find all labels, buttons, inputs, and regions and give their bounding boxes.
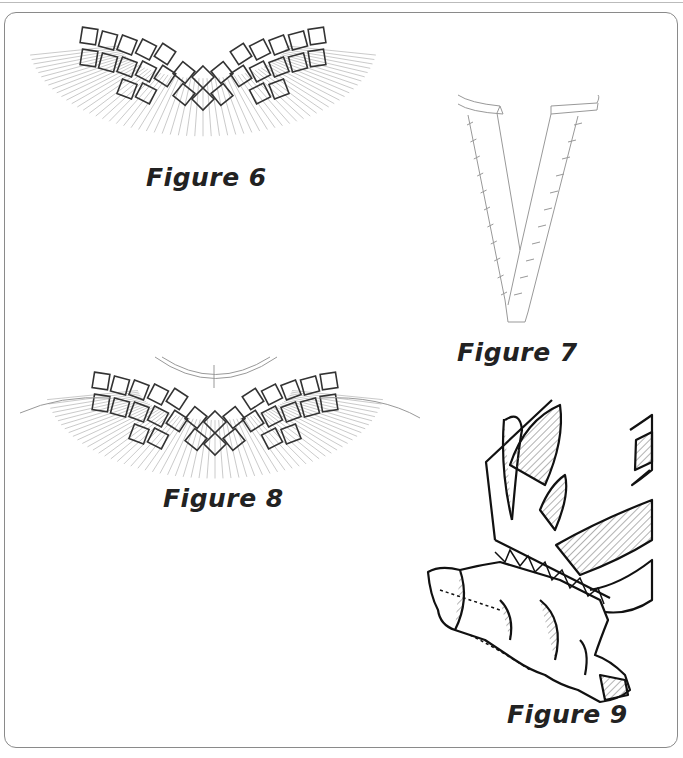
figure-9-caption: Figure 9 [507, 700, 628, 729]
ruffle-closeup-icon [0, 0, 683, 758]
figure-9-illustration [0, 0, 683, 758]
